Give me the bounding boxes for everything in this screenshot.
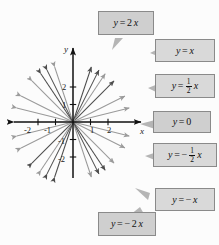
equation-y-x: y=x <box>176 46 194 56</box>
y-tick-label-1: 1 <box>62 100 66 110</box>
x-tick-label--2: -2 <box>24 125 31 135</box>
equation-y-neg-2x: y=−2x <box>111 219 143 229</box>
callout-y-neg-2x[interactable]: y=−2x <box>98 212 156 236</box>
equation-y-neg-x: y=−x <box>172 195 197 205</box>
y-tick-label--2: -2 <box>58 154 65 164</box>
equation-y-half-x: y= 12 x <box>172 78 199 94</box>
callout-y-x[interactable]: y=x <box>155 39 215 62</box>
y-axis-label: y <box>64 44 68 54</box>
callout-y-neg-half-x[interactable]: y=− 12 x <box>153 143 217 167</box>
callout-y-2x[interactable]: y=2x <box>98 11 154 35</box>
y-tick-label-2: 2 <box>62 82 66 92</box>
callout-y-neg-x[interactable]: y=−x <box>155 188 215 211</box>
x-tick-label--1: -1 <box>44 125 51 135</box>
y-tick-label--1: -1 <box>58 136 65 146</box>
callout-y-half-x[interactable]: y= 12 x <box>155 74 215 98</box>
equation-y-neg-half-x: y=− 12 x <box>168 147 202 163</box>
x-tick-label-1: 1 <box>90 125 94 135</box>
equation-y-2x: y=2x <box>114 18 139 28</box>
callout-y-0[interactable]: y=0 <box>153 111 211 133</box>
x-tick-label-2: 2 <box>107 125 111 135</box>
x-axis-label: x <box>140 126 144 136</box>
equation-y-0: y=0 <box>173 117 192 127</box>
